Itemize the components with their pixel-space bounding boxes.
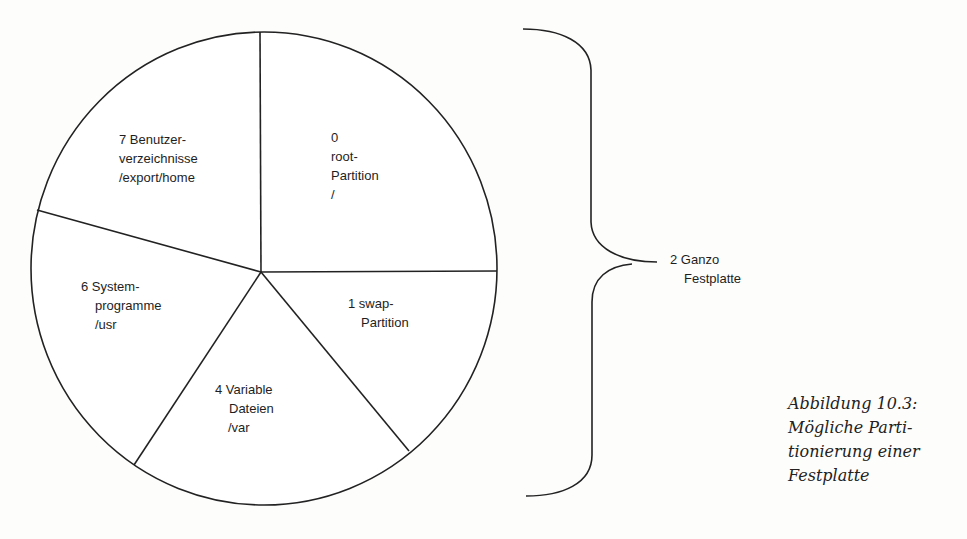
- divider-top: [260, 32, 261, 272]
- caption-line: Abbildung 10.3:: [788, 392, 920, 416]
- caption-line: Festplatte: [788, 464, 920, 488]
- slice-label-usr: 6 System- programme /usr: [81, 277, 161, 334]
- slice-label-root-partition: 0 root- Partition /: [331, 128, 379, 204]
- label-line: /: [331, 185, 379, 204]
- label-line: Festplatte: [670, 269, 741, 288]
- label-line: programme: [81, 296, 161, 315]
- slice-label-export-home: 7 Benutzer- verzeichnisse /export/home: [119, 130, 198, 187]
- label-line: Dateien: [215, 399, 274, 418]
- whole-disk-label: 2 Ganzo Festplatte: [670, 250, 741, 288]
- label-line: 1 swap-: [348, 294, 409, 313]
- label-line: Partition: [331, 166, 379, 185]
- figure-caption: Abbildung 10.3: Mögliche Parti- tionieru…: [788, 392, 920, 488]
- label-line: /usr: [81, 315, 161, 334]
- slice-label-swap-partition: 1 swap- Partition: [348, 294, 409, 332]
- curly-brace: [523, 29, 657, 496]
- label-line: root-: [331, 147, 379, 166]
- label-line: /var: [215, 418, 274, 437]
- label-line: Partition: [348, 313, 409, 332]
- label-line: verzeichnisse: [119, 149, 198, 168]
- slice-label-var: 4 Variable Dateien /var: [215, 380, 274, 437]
- label-line: 7 Benutzer-: [119, 130, 198, 149]
- label-line: 6 System-: [81, 277, 161, 296]
- caption-line: Mögliche Parti-: [788, 416, 920, 440]
- label-line: 4 Variable: [215, 380, 274, 399]
- label-line: 0: [331, 128, 379, 147]
- label-line: /export/home: [119, 168, 198, 187]
- label-line: 2 Ganzo: [670, 250, 741, 269]
- caption-line: tionierung einer: [788, 440, 920, 464]
- divider-right: [261, 271, 497, 272]
